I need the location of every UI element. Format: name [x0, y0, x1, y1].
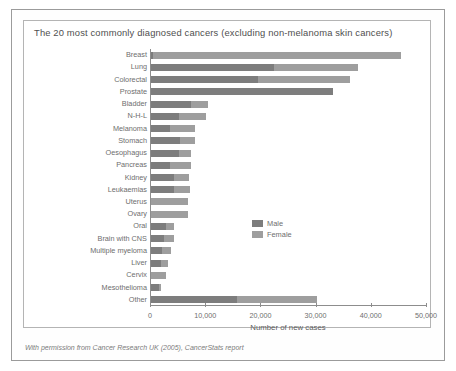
x-tick-label: 30,000: [305, 311, 327, 320]
bar-row: Brain with CNS: [151, 235, 174, 242]
bar-row: Prostate: [151, 88, 333, 95]
bar-segment-female: [191, 101, 208, 108]
bar-segment-male: [151, 76, 258, 83]
bar-segment-male: [151, 260, 161, 267]
bar-segment-male: [151, 247, 162, 254]
bar-segment-female: [166, 223, 174, 230]
bar-row: Pancreas: [151, 162, 191, 169]
figure-frame: The 20 most commonly diagnosed cancers (…: [11, 9, 445, 361]
category-label: Mesothelioma: [102, 282, 147, 293]
bar-segment-male: [151, 150, 179, 157]
bar-row: Bladder: [151, 101, 208, 108]
category-label: N-H-L: [128, 110, 147, 121]
bar-row: Mesothelioma: [151, 284, 161, 291]
legend-item-female: Female: [252, 230, 292, 239]
bar-segment-female: [151, 198, 188, 205]
bar-row: Colorectal: [151, 76, 350, 83]
category-label: Stomach: [118, 135, 147, 146]
bar-segment-female: [151, 272, 166, 279]
x-tick-mark: [150, 303, 151, 307]
bar-row: N-H-L: [151, 113, 206, 120]
x-tick-label: 20,000: [249, 311, 271, 320]
bar-segment-female: [274, 64, 358, 71]
bar-segment-male: [151, 284, 159, 291]
bar-row: Cervix: [151, 272, 166, 279]
category-label: Melanoma: [113, 123, 147, 134]
bar-segment-male: [151, 186, 174, 193]
bar-row: Melanoma: [151, 125, 195, 132]
bar-segment-female: [153, 52, 401, 59]
bar-segment-female: [174, 186, 191, 193]
chart-legend: Male Female: [252, 219, 292, 241]
category-label: Lung: [131, 61, 147, 72]
x-axis-line: [150, 305, 426, 306]
bar-row: Stomach: [151, 137, 195, 144]
bar-segment-male: [151, 137, 180, 144]
bar-segment-female: [179, 113, 206, 120]
bar-segment-male: [151, 88, 333, 95]
bar-segment-male: [151, 223, 166, 230]
bar-segment-female: [170, 125, 195, 132]
bar-row: Leukaemias: [151, 186, 190, 193]
bar-row: Other: [151, 296, 317, 303]
bar-row: Breast: [151, 52, 401, 59]
category-label: Pancreas: [116, 159, 147, 170]
bar-row: Multiple myeloma: [151, 247, 171, 254]
bar-segment-female: [162, 247, 171, 254]
category-label: Colorectal: [114, 74, 147, 85]
x-tick-label: 0: [148, 311, 152, 320]
legend-label-female: Female: [267, 230, 292, 239]
category-label: Liver: [131, 257, 147, 268]
bar-segment-female: [174, 174, 188, 181]
bar-row: Oesophagus: [151, 150, 191, 157]
bar-segment-female: [170, 162, 190, 169]
plot-area: BreastLungColorectalProstateBladderN-H-L…: [150, 49, 426, 306]
bar-segment-male: [151, 125, 170, 132]
legend-item-male: Male: [252, 219, 292, 228]
bar-row: Lung: [151, 64, 358, 71]
x-tick-mark: [260, 303, 261, 307]
source-note: With permission from Cancer Research UK …: [25, 344, 244, 351]
x-tick-mark: [426, 303, 427, 307]
category-label: Ovary: [128, 208, 147, 219]
bar-segment-female: [164, 235, 174, 242]
bar-segment-female: [179, 150, 192, 157]
legend-label-male: Male: [267, 219, 283, 228]
bar-segment-male: [151, 101, 191, 108]
bar-row: Kidney: [151, 174, 189, 181]
x-tick-mark: [371, 303, 372, 307]
x-tick-label: 40,000: [360, 311, 382, 320]
category-label: Other: [129, 294, 147, 305]
x-tick-label: 10,000: [194, 311, 216, 320]
x-axis-label: Number of new cases: [150, 323, 426, 332]
bar-segment-female: [258, 76, 350, 83]
category-label: Cervix: [126, 269, 147, 280]
chart-title: The 20 most commonly diagnosed cancers (…: [34, 27, 392, 38]
category-label: Brain with CNS: [98, 233, 147, 244]
bar-segment-male: [151, 174, 174, 181]
x-tick-mark: [316, 303, 317, 307]
category-label: Leukaemias: [108, 184, 147, 195]
bar-segment-male: [151, 113, 179, 120]
bar-row: Liver: [151, 260, 168, 267]
bar-row: Oral: [151, 223, 174, 230]
bar-segment-male: [151, 64, 274, 71]
category-label: Multiple myeloma: [90, 245, 147, 256]
category-label: Kidney: [125, 172, 147, 183]
category-label: Oral: [133, 220, 147, 231]
category-label: Prostate: [120, 86, 147, 97]
bar-row: Ovary: [151, 211, 188, 218]
bar-segment-male: [151, 235, 164, 242]
x-tick-label: 50,000: [415, 311, 437, 320]
bar-segment-male: [151, 162, 170, 169]
bar-segment-female: [161, 260, 168, 267]
legend-swatch-male-icon: [252, 220, 263, 227]
bar-segment-female: [159, 284, 161, 291]
bar-segment-female: [180, 137, 195, 144]
bar-segment-female: [151, 211, 188, 218]
category-label: Breast: [126, 49, 147, 60]
bar-segment-male: [151, 296, 237, 303]
category-label: Uterus: [126, 196, 148, 207]
x-tick-mark: [205, 303, 206, 307]
bar-segment-female: [237, 296, 317, 303]
